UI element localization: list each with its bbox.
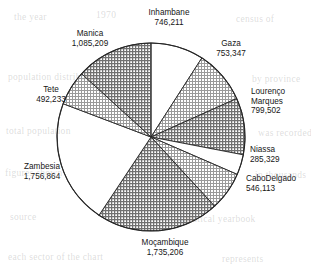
slice-value: 746,211	[155, 18, 184, 27]
pie-label-louren-o-marques: LourençoMarques799,502	[251, 87, 286, 115]
pie-label-niassa: Niassa285,329	[250, 145, 280, 164]
slice-name: Tete	[43, 85, 59, 94]
pie-chart-figure: the year1970census ofpopulation distribu…	[0, 0, 311, 275]
slice-value: 1,085,209	[72, 39, 109, 48]
pie-label-zambesia: Zambesia1,756,864	[24, 162, 61, 181]
slice-name: Lourenço	[251, 87, 286, 96]
slice-name: Niassa	[250, 145, 275, 154]
slice-value: 285,329	[250, 155, 280, 164]
slice-value: 1,735,206	[147, 248, 184, 257]
slice-name: CaboDelgado	[246, 174, 297, 183]
pie-label-cabodelgado: CaboDelgado546,113	[246, 174, 297, 193]
slice-value: 753,347	[216, 49, 246, 58]
slice-value: 492,233	[36, 95, 66, 104]
slice-name: Marques	[251, 97, 283, 106]
pie-slices-group	[57, 43, 245, 231]
slice-name: Moçambique	[142, 238, 189, 247]
slice-value: 546,113	[246, 184, 275, 193]
slice-name: Gaza	[221, 39, 241, 48]
pie-label-mo-ambique: Moçambique1,735,206	[142, 238, 189, 257]
slice-name: Inhambane	[149, 8, 190, 17]
population-pie-chart: Inhambane746,211Gaza753,347LourençoMarqu…	[0, 0, 311, 275]
pie-label-tete: Tete492,233	[36, 85, 66, 104]
pie-label-manica: Manica1,085,209	[72, 29, 109, 48]
pie-label-gaza: Gaza753,347	[216, 39, 246, 58]
pie-label-inhambane: Inhambane746,211	[149, 8, 190, 27]
slice-name: Zambesia	[24, 162, 60, 171]
slice-name: Manica	[77, 29, 104, 38]
slice-value: 799,502	[251, 106, 281, 115]
slice-value: 1,756,864	[24, 172, 61, 181]
